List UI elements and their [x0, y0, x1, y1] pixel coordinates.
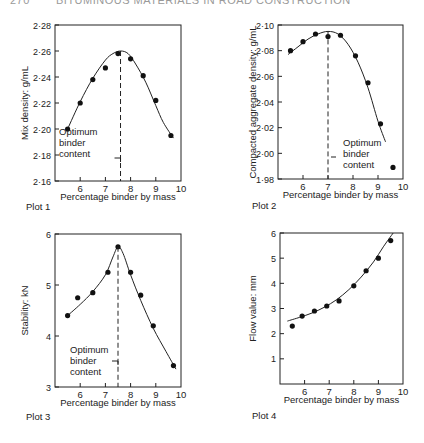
y-tick-label: 1·98	[256, 175, 274, 185]
optimum-annotation-text: binder	[59, 137, 85, 148]
data-point	[324, 303, 329, 308]
data-point	[300, 39, 305, 44]
y-tick-label: 2·00	[256, 149, 274, 159]
data-point	[138, 293, 143, 298]
data-point	[365, 80, 370, 85]
data-point	[75, 295, 80, 300]
plot-2: 1·982·002·022·042·062·082·10678910 Optim…	[247, 21, 408, 212]
y-tick-label: 1	[271, 354, 276, 364]
data-point	[351, 283, 356, 288]
y-tick-label: 2·22	[33, 99, 51, 109]
optimum-annotation-text: Optimum	[343, 137, 382, 148]
plot-4-caption: Plot 4	[252, 410, 276, 421]
y-tick-label: 2·06	[256, 72, 274, 82]
data-point	[90, 77, 95, 82]
data-point	[65, 313, 70, 318]
data-point	[78, 100, 83, 105]
data-point	[288, 48, 293, 53]
data-point	[376, 256, 381, 261]
x-tick-label: 10	[176, 183, 187, 194]
y-tick-label: 4	[271, 279, 276, 289]
plot-3-caption: Plot 3	[26, 411, 50, 422]
y-tick-label: 2·26	[33, 47, 51, 57]
y-tick-label: 2·28	[33, 21, 51, 31]
optimum-annotation-text: content	[70, 366, 102, 377]
data-point	[153, 98, 158, 103]
plot-1-caption: Plot 1	[26, 201, 50, 212]
x-tick-label: 10	[176, 389, 187, 400]
plot-4-ylabel: Flow value: mm	[247, 275, 258, 342]
plot-4-xlabel: Percentage binder by mass	[284, 394, 400, 405]
data-point	[364, 268, 369, 273]
y-tick-label: 2·02	[256, 123, 274, 133]
data-point	[312, 308, 317, 313]
data-point	[103, 65, 108, 70]
y-tick-label: 2·18	[33, 151, 51, 161]
data-point	[128, 270, 133, 275]
y-tick-label: 2·24	[33, 73, 51, 83]
data-point	[290, 324, 295, 329]
data-point	[313, 31, 318, 36]
data-point	[90, 290, 95, 295]
data-point	[300, 313, 305, 318]
data-point	[115, 51, 120, 56]
fit-curve	[288, 31, 386, 141]
plot-frame	[280, 233, 403, 384]
optimum-annotation-text: Optimum	[59, 126, 98, 137]
plot-1-ylabel: Mix density: g/mL	[19, 66, 30, 140]
optimum-annotation-text: content	[343, 159, 375, 170]
y-tick-label: 2·04	[256, 98, 274, 108]
y-tick-label: 4	[46, 332, 51, 342]
optimum-annotation-text: binder	[343, 148, 369, 159]
data-point	[128, 56, 133, 61]
plot-4: 123456678910 Flow value: mm Percentage b…	[247, 229, 408, 422]
plot-2-ylabel: Compacted aggregate density: g/mL	[247, 25, 258, 178]
optimum-annotation-text: Optimum	[70, 344, 109, 355]
data-point	[390, 165, 395, 170]
data-point	[141, 73, 146, 78]
y-tick-label: 2·20	[33, 125, 51, 135]
figure-four-plots: 2·162·182·202·222·242·262·28678910 Optim…	[0, 0, 424, 443]
data-point	[168, 133, 173, 138]
y-tick-label: 2	[271, 329, 276, 339]
plot-2-xlabel: Percentage binder by mass	[283, 189, 399, 200]
y-tick-label: 5	[271, 254, 276, 264]
x-tick-label: 10	[398, 181, 409, 192]
data-point	[338, 33, 343, 38]
y-tick-label: 2·08	[256, 46, 274, 56]
optimum-annotation-text: binder	[70, 355, 96, 366]
y-tick-label: 5	[46, 281, 51, 291]
plot-3: 3456678910 Optimumbindercontent Stabilit…	[19, 230, 186, 423]
plot-1: 2·162·182·202·222·242·262·28678910 Optim…	[19, 21, 186, 213]
y-tick-label: 3	[271, 304, 276, 314]
fit-curve	[287, 233, 393, 321]
plot-2-caption: Plot 2	[252, 200, 276, 211]
data-point	[353, 53, 358, 58]
y-tick-label: 6	[46, 230, 51, 240]
data-point	[171, 363, 176, 368]
plot-3-xlabel: Percentage binder by mass	[60, 397, 176, 408]
y-tick-label: 2·16	[33, 177, 51, 187]
data-point	[105, 270, 110, 275]
data-point	[336, 298, 341, 303]
y-tick-label: 3	[46, 383, 51, 393]
optimum-annotation-text: content	[59, 148, 91, 159]
y-tick-label: 6	[271, 229, 276, 239]
data-point	[151, 323, 156, 328]
data-point	[378, 121, 383, 126]
plot-3-ylabel: Stability: kN	[19, 285, 30, 335]
plot-1-xlabel: Percentage binder by mass	[60, 191, 176, 202]
y-tick-label: 2·10	[256, 21, 274, 31]
data-point	[388, 238, 393, 243]
